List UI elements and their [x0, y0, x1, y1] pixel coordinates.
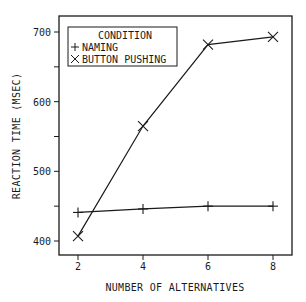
- legend-label-button-pushing: BUTTON PUSHING: [82, 54, 166, 65]
- reaction-time-chart: 400500600700 2468 REACTION TIME (MSEC) N…: [0, 0, 306, 302]
- x-tick-label: 6: [205, 261, 211, 272]
- y-axis-label: REACTION TIME (MSEC): [11, 73, 22, 199]
- x-tick-label: 4: [140, 261, 146, 272]
- series-naming: [73, 201, 278, 217]
- legend-label-naming: NAMING: [82, 42, 118, 53]
- plus-marker-icon: [138, 204, 148, 214]
- x-marker-icon: [138, 121, 148, 131]
- legend-title: CONDITION: [98, 30, 152, 41]
- x-marker-icon: [73, 231, 83, 241]
- x-axis-label: NUMBER OF ALTERNATIVES: [105, 282, 244, 293]
- x-tick-label: 2: [75, 261, 81, 272]
- y-tick-label: 600: [33, 97, 51, 108]
- plus-marker-icon: [203, 201, 213, 211]
- legend: CONDITION NAMING BUTTON PUSHING: [68, 27, 177, 66]
- y-tick-label: 500: [33, 166, 51, 177]
- x-axis-ticks: 2468: [75, 255, 276, 272]
- y-tick-label: 400: [33, 236, 51, 247]
- plus-marker-icon: [73, 207, 83, 217]
- y-tick-label: 700: [33, 27, 51, 38]
- x-tick-label: 8: [270, 261, 276, 272]
- plus-marker-icon: [268, 201, 278, 211]
- y-axis-ticks: 400500600700: [33, 27, 59, 247]
